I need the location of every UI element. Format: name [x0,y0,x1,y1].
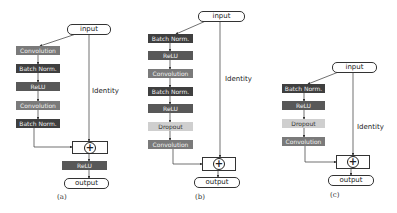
output-node: output [328,175,374,186]
convolution-block: Convolution [148,140,193,149]
convolution-block: Convolution [16,46,60,55]
identity-label: Identity [225,75,252,83]
panel-caption: (a) [57,193,67,201]
batch-norm-block: Batch Norm. [16,64,60,73]
dropout-block: Dropout [282,119,325,128]
convolution-block: Convolution [16,101,60,110]
sum-node: + [72,141,108,154]
relu-block: ReLU [148,51,193,60]
batch-norm-block: Batch Norm. [148,34,193,43]
plus-icon: + [347,156,359,168]
batch-norm-block: Batch Norm. [282,84,325,93]
panel-caption: (c) [330,191,339,199]
panel-caption: (b) [195,193,205,201]
input-node: input [332,62,377,73]
plus-icon: + [213,158,225,170]
batch-norm-block: Batch Norm. [148,87,193,96]
relu-block: ReLU [16,82,60,91]
input-node: input [67,24,111,35]
relu-block: ReLU [148,104,193,113]
convolution-block: Convolution [148,69,193,78]
relu-block: ReLU [282,101,325,110]
convolution-block: Convolution [282,137,325,146]
batch-norm-block: Batch Norm. [16,119,60,128]
input-node: input [198,11,245,22]
relu-block: ReLU [62,161,107,170]
plus-icon: + [84,142,96,154]
identity-label: Identity [357,123,384,131]
output-node: output [194,177,240,188]
output-node: output [64,178,109,189]
sum-node: + [202,157,236,171]
dropout-block: Dropout [148,122,193,131]
identity-label: Identity [92,87,119,95]
sum-node: + [336,155,370,169]
